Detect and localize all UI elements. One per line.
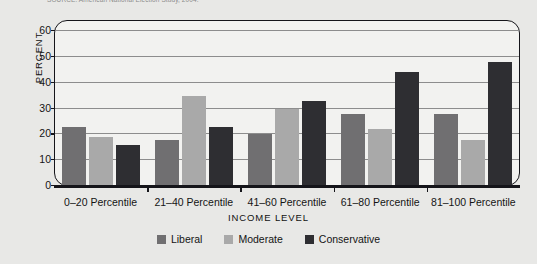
bar-group bbox=[54, 21, 147, 186]
y-tick-label: 20 bbox=[21, 128, 51, 139]
y-tick-mark bbox=[51, 185, 55, 186]
bar[interactable] bbox=[395, 72, 419, 186]
bar[interactable] bbox=[302, 101, 326, 186]
legend-item-liberal[interactable]: Liberal bbox=[157, 233, 203, 245]
legend-swatch-icon bbox=[157, 235, 166, 244]
chart-figure: SOURCE: American National Election Study… bbox=[0, 0, 537, 264]
y-tick-label: 0 bbox=[21, 180, 51, 191]
x-tick-mark bbox=[334, 187, 335, 192]
y-axis-title: PERCENT bbox=[33, 0, 44, 118]
bar-group bbox=[334, 21, 427, 186]
y-tick-mark bbox=[51, 56, 55, 57]
bar[interactable] bbox=[89, 137, 113, 186]
bar[interactable] bbox=[62, 127, 86, 186]
x-axis-title: INCOME LEVEL bbox=[0, 212, 537, 223]
bar[interactable] bbox=[434, 114, 458, 186]
legend-swatch-icon bbox=[305, 235, 314, 244]
x-tick-mark bbox=[427, 187, 428, 192]
bar[interactable] bbox=[182, 96, 206, 186]
x-axis-line bbox=[54, 185, 520, 188]
legend-item-moderate[interactable]: Moderate bbox=[224, 233, 282, 245]
legend-label: Moderate bbox=[238, 233, 282, 245]
x-tick-mark bbox=[147, 187, 148, 192]
legend-swatch-icon bbox=[224, 235, 233, 244]
bar-group bbox=[147, 21, 240, 186]
y-tick-mark bbox=[51, 159, 55, 160]
bar[interactable] bbox=[461, 140, 485, 187]
bar[interactable] bbox=[209, 127, 233, 186]
bar[interactable] bbox=[341, 114, 365, 186]
x-tick-mark bbox=[240, 187, 241, 192]
bars-layer bbox=[54, 20, 520, 186]
bar[interactable] bbox=[368, 129, 392, 186]
y-tick-mark bbox=[51, 82, 55, 83]
bar[interactable] bbox=[116, 145, 140, 186]
legend-item-conservative[interactable]: Conservative bbox=[305, 233, 380, 245]
legend-label: Conservative bbox=[319, 233, 380, 245]
y-tick-label: 10 bbox=[21, 154, 51, 165]
bar[interactable] bbox=[488, 62, 512, 186]
bar[interactable] bbox=[275, 109, 299, 187]
y-tick-mark bbox=[51, 108, 55, 109]
x-tick-label: 81–100 Percentile bbox=[418, 196, 528, 208]
legend-label: Liberal bbox=[171, 233, 203, 245]
bar[interactable] bbox=[155, 140, 179, 187]
y-tick-mark bbox=[51, 30, 55, 31]
bar[interactable] bbox=[248, 134, 272, 186]
chart-legend: LiberalModerateConservative bbox=[0, 233, 537, 245]
bar-group bbox=[240, 21, 333, 186]
y-tick-mark bbox=[51, 133, 55, 134]
bar-group bbox=[427, 21, 520, 186]
source-caption: SOURCE: American National Election Study… bbox=[47, 0, 199, 3]
